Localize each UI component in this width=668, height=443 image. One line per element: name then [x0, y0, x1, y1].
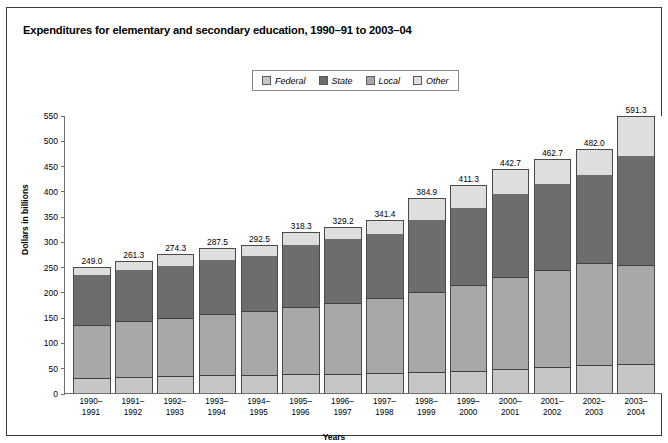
x-axis-ticks: 1990–19911991–19921992–19931993–19941994… [64, 397, 662, 418]
stacked-bar[interactable]: 482.0 [576, 149, 613, 393]
y-tick-300: 300 [36, 237, 65, 247]
x-tick-line: 1995 [240, 408, 278, 419]
legend-label-state: State [332, 76, 353, 86]
stacked-bar[interactable]: 341.4 [366, 220, 403, 393]
bar-segment-other [116, 262, 151, 270]
y-tick-500: 500 [36, 136, 65, 146]
y-tick-250: 250 [36, 263, 65, 273]
bar-segment-other [74, 268, 109, 275]
bar-segment-other [409, 199, 444, 219]
y-tick-label: 250 [36, 263, 58, 273]
legend-label-local: Local [379, 76, 401, 86]
x-tick-label: 2001–2002 [533, 397, 571, 418]
bar-segment-federal [618, 365, 653, 393]
bar-value-label: 261.3 [123, 250, 144, 260]
stacked-bar[interactable]: 292.5 [241, 245, 278, 393]
stacked-bar[interactable]: 287.5 [199, 248, 236, 393]
bar-segment-federal [74, 379, 109, 393]
bar-segment-local [325, 304, 360, 375]
x-tick-line: 1991– [114, 397, 152, 408]
legend-swatch-local [366, 76, 375, 85]
x-tick-line: 1997– [366, 397, 404, 408]
bar-segment-state [200, 260, 235, 315]
y-tick-label: 100 [36, 338, 58, 348]
bar-column[interactable]: 591.3 [617, 116, 654, 393]
chart-figure: Expenditures for elementary and secondar… [0, 0, 668, 443]
legend-item-other: Other [413, 76, 449, 86]
x-tick-line: 2003 [575, 408, 613, 419]
bar-column[interactable]: 292.5 [241, 116, 278, 393]
x-tick-label: 1999–2000 [449, 397, 487, 418]
stacked-bar[interactable]: 318.3 [282, 232, 319, 393]
bar-group: 249.0261.3274.3287.5292.5318.3329.2341.4… [65, 116, 662, 393]
stacked-bar[interactable]: 329.2 [324, 227, 361, 393]
bar-column[interactable]: 341.4 [366, 116, 403, 393]
bar-column[interactable]: 482.0 [576, 116, 613, 393]
bar-segment-local [116, 322, 151, 379]
stacked-bar[interactable]: 462.7 [534, 159, 571, 393]
stacked-bar[interactable]: 591.3 [617, 116, 654, 393]
x-axis-title: Years [7, 432, 661, 442]
bar-segment-state [367, 234, 402, 299]
bar-segment-local [200, 315, 235, 376]
x-tick-line: 2000 [449, 408, 487, 419]
x-tick-label: 1992–1993 [156, 397, 194, 418]
bar-segment-federal [577, 366, 612, 393]
bar-value-label: 442.7 [500, 158, 521, 168]
x-tick-label: 1990–1991 [72, 397, 110, 418]
bar-segment-state [116, 270, 151, 322]
bar-segment-federal [409, 373, 444, 393]
y-tick-0: 0 [36, 389, 65, 399]
bar-segment-federal [367, 374, 402, 393]
x-tick-line: 2002– [575, 397, 613, 408]
bar-value-label: 462.7 [542, 148, 563, 158]
stacked-bar[interactable]: 442.7 [492, 169, 529, 393]
bar-column[interactable]: 462.7 [534, 116, 571, 393]
bar-segment-federal [325, 375, 360, 393]
bar-column[interactable]: 274.3 [157, 116, 194, 393]
y-tick-400: 400 [36, 187, 65, 197]
x-tick-line: 1996– [324, 397, 362, 408]
bar-column[interactable]: 329.2 [324, 116, 361, 393]
bar-segment-other [158, 255, 193, 265]
legend-item-local: Local [366, 76, 401, 86]
x-tick-label: 1991–1992 [114, 397, 152, 418]
stacked-bar[interactable]: 249.0 [73, 267, 110, 393]
stacked-bar[interactable]: 411.3 [450, 185, 487, 393]
bar-column[interactable]: 261.3 [115, 116, 152, 393]
x-tick-line: 2003– [617, 397, 655, 408]
legend-label-other: Other [426, 76, 449, 86]
legend-swatch-federal [262, 76, 271, 85]
bar-value-label: 411.3 [458, 174, 478, 184]
bar-segment-other [577, 150, 612, 174]
y-tick-200: 200 [36, 288, 65, 298]
y-axis-title: Dollars in billions [20, 184, 30, 255]
bar-column[interactable]: 249.0 [73, 116, 110, 393]
bar-segment-federal [283, 375, 318, 393]
x-tick-line: 1994 [198, 408, 236, 419]
bar-segment-other [367, 221, 402, 233]
bar-column[interactable]: 384.9 [408, 116, 445, 393]
bar-segment-state [451, 208, 486, 286]
bar-column[interactable]: 318.3 [282, 116, 319, 393]
stacked-bar[interactable]: 384.9 [408, 198, 445, 393]
x-tick-label: 1997–1998 [366, 397, 404, 418]
x-tick-line: 1990– [72, 397, 110, 408]
x-tick-line: 2001 [491, 408, 529, 419]
bar-segment-federal [451, 372, 486, 393]
bar-value-label: 591.3 [626, 105, 647, 115]
x-tick-line: 1996 [282, 408, 320, 419]
bar-value-label: 329.2 [333, 216, 354, 226]
chart-title: Expenditures for elementary and secondar… [23, 24, 412, 36]
bar-segment-state [325, 239, 360, 304]
bar-column[interactable]: 442.7 [492, 116, 529, 393]
bar-value-label: 287.5 [207, 237, 228, 247]
y-tick-label: 150 [36, 313, 58, 323]
bar-segment-local [577, 264, 612, 366]
stacked-bar[interactable]: 261.3 [115, 261, 152, 393]
bar-column[interactable]: 411.3 [450, 116, 487, 393]
x-tick-line: 1999 [408, 408, 446, 419]
bar-segment-state [74, 275, 109, 326]
bar-column[interactable]: 287.5 [199, 116, 236, 393]
stacked-bar[interactable]: 274.3 [157, 254, 194, 393]
